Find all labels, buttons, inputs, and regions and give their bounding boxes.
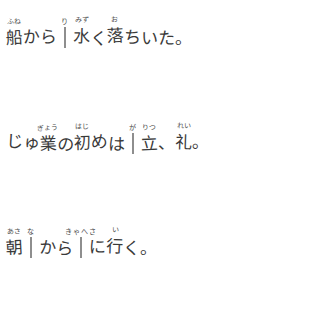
base-ni: に [89,239,106,256]
base-rei: 礼 [175,134,193,152]
kana-ni: に [89,239,106,256]
kanji-asa: あさ 朝 [6,240,24,258]
kana-no: の [57,136,75,154]
ruby-gyou: ぎょう [37,124,58,132]
base-iku: 行 [106,238,124,256]
base-fune: 船 [6,30,24,48]
base-kara-1: から [23,29,57,47]
ruby-answer-box-2: が [129,122,137,132]
ruby-ochi: お [111,17,118,24]
sentence-line-1: ふね 船 から り みず 水 く お 落 ちいた。 [6,28,192,47]
ruby-mizu: みず [75,17,89,24]
answer-box-field-4[interactable] [80,237,82,258]
kana-kara-2: から [39,239,74,258]
base-no: の [57,136,75,154]
base-comma: 、 [158,135,175,152]
punct-comma: 、 [158,135,175,152]
base-me: め [91,134,109,152]
answer-box[interactable]: り [64,28,66,47]
base-haji: 初 [74,135,91,152]
base-ritsu: 立 [141,136,159,154]
kana-chiita: ちいた。 [124,29,192,47]
kanji-mizu: みず 水 [73,28,91,46]
ruby-answer-box-1: り [61,16,69,26]
kanji-gyou: ぎょう 業 [40,136,58,154]
kana-kara-1: から [23,29,57,47]
base-kara-2: から [39,239,74,258]
kana-ku-maru: く。 [123,240,157,258]
base-gyou: 業 [40,136,58,154]
ruby-answer-box-3: な [27,226,35,236]
base-ku-1: く [90,30,108,48]
sentence-line-2: じゅ ぎょう 業 の はじ 初 め は が りつ 立 、 [6,134,209,153]
base-ochi: 落 [107,28,125,46]
kanji-ochi: お 落 [107,28,125,46]
base-chiita: ちいた。 [124,29,192,47]
punct-maru-2: 。 [192,134,210,152]
ruby-rei: れい [177,123,191,130]
answer-box[interactable]: が [132,134,134,153]
worksheet-canvas: ふね 船 から り みず 水 く お 落 ちいた。 じゅ [0,0,313,327]
answer-box-field-1[interactable] [64,27,66,48]
base-ju: じゅ [6,133,41,151]
kanji-rei: れい 礼 [175,134,193,152]
ruby-iku: い [111,227,118,234]
kanji-iku: い 行 [106,238,124,256]
answer-box-field-3[interactable] [30,237,32,258]
ruby-fune: ふね [7,19,21,27]
base-maru-2: 。 [192,134,210,152]
base-asa: 朝 [6,240,24,258]
kanji-haji: はじ 初 [74,135,91,152]
kana-ha: は [108,136,125,153]
kana-ju: じゅ [6,133,41,151]
kana-me: め [91,134,109,152]
base-ha: は [108,136,125,153]
ruby-asa: あさ [7,229,21,237]
kanji-fune: ふね 船 [6,30,24,48]
answer-box[interactable]: きゃへさ [80,238,82,257]
ruby-answer-box-4: きゃへさ [65,226,97,236]
kana-ku-1: く [90,30,108,48]
answer-box[interactable]: な [30,238,32,257]
base-mizu: 水 [73,28,91,46]
ruby-haji: はじ [75,124,89,131]
answer-box-field-2[interactable] [132,133,134,154]
sentence-line-3: あさ 朝 な から きゃへさ に い 行 く。 [6,238,157,257]
ruby-ritsu: りつ [142,125,156,133]
kanji-ritsu: りつ 立 [141,136,159,154]
base-ku-maru: く。 [123,240,157,258]
